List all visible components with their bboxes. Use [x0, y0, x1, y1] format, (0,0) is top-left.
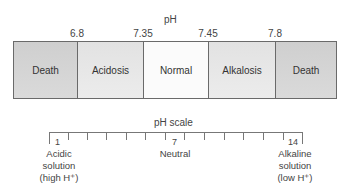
ruler-tick — [87, 132, 88, 140]
ruler-tick — [126, 132, 127, 140]
segment-normal: Normal — [144, 42, 209, 98]
segment-acidosis: Acidosis — [78, 42, 144, 98]
ruler-tick — [68, 132, 69, 140]
caption-line: Acidic — [40, 148, 79, 160]
caption-line: solution — [277, 160, 312, 172]
ruler-tick — [184, 132, 185, 140]
ruler-tick — [243, 132, 244, 140]
ruler-tick — [224, 132, 225, 140]
caption-line: (high H⁺) — [40, 172, 79, 184]
ruler-end-left — [49, 132, 50, 144]
segment-death-low: Death — [14, 42, 78, 98]
scale-label-7: 7 — [172, 137, 177, 147]
acidic-caption: Acidic solution (high H⁺) — [40, 148, 79, 184]
caption-line: solution — [40, 160, 79, 172]
boundary-label-7.8: 7.8 — [268, 28, 282, 39]
boundary-label-7.45: 7.45 — [198, 28, 217, 39]
neutral-caption: Neutral — [160, 148, 191, 160]
ruler-end-right — [302, 132, 303, 144]
boundary-label-6.8: 6.8 — [70, 28, 84, 39]
caption-line: Alkaline — [277, 148, 312, 160]
caption-line: (low H⁺) — [277, 172, 312, 184]
scale-label-14: 14 — [288, 137, 298, 147]
ruler-tick — [165, 132, 166, 140]
boundary-label-7.35: 7.35 — [133, 28, 152, 39]
segment-alkalosis: Alkalosis — [209, 42, 276, 98]
scale-label-1: 1 — [55, 137, 60, 147]
ph-range-bar: Death Acidosis Normal Alkalosis Death — [13, 41, 337, 99]
alkaline-caption: Alkaline solution (low H⁺) — [277, 148, 312, 184]
ruler-tick — [145, 132, 146, 140]
scale-title: pH scale — [154, 117, 193, 128]
ruler-tick — [263, 132, 264, 140]
ruler-tick — [106, 132, 107, 140]
segment-death-high: Death — [276, 42, 336, 98]
ruler-tick — [204, 132, 205, 140]
ruler-tick — [283, 132, 284, 140]
diagram-title: pH — [164, 14, 177, 25]
